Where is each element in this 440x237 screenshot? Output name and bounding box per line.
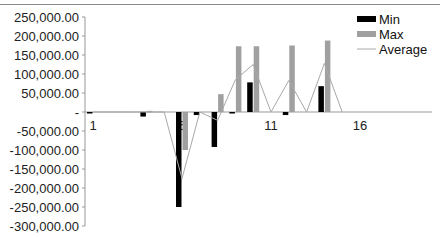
x-tick-label: 1 (89, 118, 96, 133)
y-tick-label: -200,000.00 (10, 181, 79, 196)
max-bar (183, 112, 189, 150)
x-axis: 161116 (85, 112, 432, 133)
bar-series (87, 41, 330, 207)
min-legend-swatch (357, 16, 376, 22)
min-bar (247, 82, 253, 112)
x-tick-label: 16 (353, 118, 367, 133)
y-tick-label: 100,000.00 (14, 67, 79, 82)
min-bar (212, 112, 218, 147)
min-bar (194, 112, 200, 115)
min-bar (318, 86, 324, 112)
y-tick-label: -50,000.00 (17, 124, 79, 139)
legend-label: Min (379, 12, 400, 27)
y-axis: 250,000.00200,000.00150,000.00100,000.00… (10, 10, 85, 234)
y-tick-label: 150,000.00 (14, 48, 79, 63)
legend-label: Max (379, 27, 404, 42)
y-tick-label: 250,000.00 (14, 10, 79, 25)
average-line (93, 63, 342, 178)
y-tick-label: -250,000.00 (10, 200, 79, 215)
legend: MinMaxAverage (357, 12, 427, 57)
y-tick-label: -150,000.00 (10, 162, 79, 177)
min-bar (140, 112, 146, 117)
max-legend-swatch (357, 31, 376, 37)
y-tick-label: -300,000.00 (10, 219, 79, 234)
min-bar (229, 112, 235, 114)
average-line-series (93, 63, 342, 178)
min-bar (87, 112, 93, 114)
y-tick-label: 200,000.00 (14, 29, 79, 44)
y-tick-label: 50,000.00 (21, 86, 79, 101)
max-bar (289, 46, 295, 113)
legend-label: Average (379, 42, 427, 57)
y-tick-label: - (75, 105, 79, 120)
min-bar (283, 112, 289, 115)
chart-plot: 250,000.00200,000.00150,000.00100,000.00… (0, 0, 440, 237)
x-tick-label: 11 (264, 118, 278, 133)
y-tick-label: -100,000.00 (10, 143, 79, 158)
